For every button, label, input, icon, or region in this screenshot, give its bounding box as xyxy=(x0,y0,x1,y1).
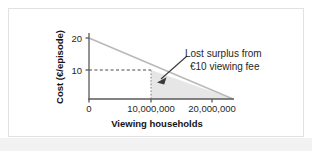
figure-root: 20 10 0 10,000,000 20,000,000 Viewing ho… xyxy=(0,0,312,151)
lost-surplus-arrow-line xyxy=(161,56,187,79)
lost-surplus-annotation-line1: Lost surplus from xyxy=(185,48,262,59)
y-axis-title: Cost (€/episode) xyxy=(54,30,65,104)
lost-surplus-annotation-line2: €10 viewing fee xyxy=(190,61,260,72)
page-background-strip xyxy=(0,138,312,151)
figure-card: 20 10 0 10,000,000 20,000,000 Viewing ho… xyxy=(8,8,304,137)
x-tick-label-20m: 20,000,000 xyxy=(188,103,236,114)
x-tick-label-10m: 10,000,000 xyxy=(127,103,175,114)
x-axis-title: Viewing households xyxy=(111,118,203,129)
economics-demand-chart: 20 10 0 10,000,000 20,000,000 Viewing ho… xyxy=(9,9,303,136)
y-tick-label-20: 20 xyxy=(71,33,82,44)
x-tick-label-0: 0 xyxy=(86,103,91,114)
y-tick-label-10: 10 xyxy=(71,65,82,76)
